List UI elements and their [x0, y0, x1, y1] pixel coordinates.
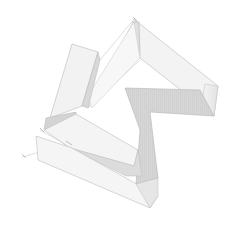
folded-ribbon-sketch	[0, 0, 238, 235]
